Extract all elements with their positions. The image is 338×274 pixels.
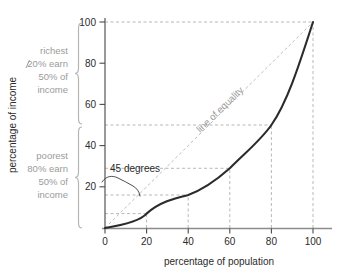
richest-line-3: 50% of: [38, 71, 68, 82]
poorest-line-1: poorest: [36, 150, 68, 161]
y-tick-label-100: 100: [79, 17, 96, 28]
lorenz-curve-figure: 100 80 60 40 20 0 20 40 60 80 100 percen…: [0, 0, 338, 274]
x-tick-label-100: 100: [305, 236, 322, 247]
y-tick-label-60: 60: [85, 99, 97, 110]
poorest-line-3: 50% of: [38, 176, 68, 187]
y-tick-label-20: 20: [85, 181, 97, 192]
x-tick-label-20: 20: [141, 236, 153, 247]
poorest-line-4: income: [37, 189, 68, 200]
richest-line-2: 20% earn: [27, 58, 68, 69]
x-tick-label-80: 80: [266, 236, 278, 247]
y-tick-label-80: 80: [85, 58, 97, 69]
y-tick-label-40: 40: [85, 140, 97, 151]
chart-canvas: 100 80 60 40 20 0 20 40 60 80 100 percen…: [0, 0, 338, 274]
richest-line-4: income: [37, 84, 68, 95]
richest-line-1: richest: [40, 45, 68, 56]
y-axis-title: percentage of income: [7, 76, 18, 173]
x-tick-label-40: 40: [183, 236, 195, 247]
x-tick-label-0: 0: [102, 236, 108, 247]
x-axis-title: percentage of population: [164, 256, 274, 267]
forty-five-degrees-label: 45 degrees: [110, 163, 160, 174]
poorest-line-2: 80% earn: [27, 163, 68, 174]
chart-background: [0, 0, 338, 274]
x-tick-label-60: 60: [224, 236, 236, 247]
